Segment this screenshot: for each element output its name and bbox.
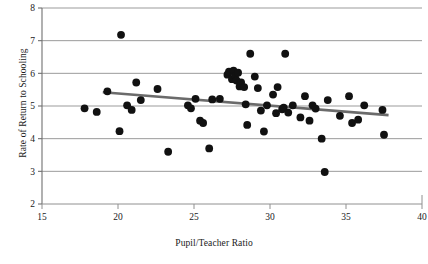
y-tick-marks	[38, 8, 42, 204]
data-point	[242, 100, 250, 108]
data-point	[205, 145, 213, 153]
data-point	[243, 121, 251, 129]
x-tick-label: 20	[113, 212, 123, 222]
data-point	[187, 104, 195, 112]
data-point	[254, 84, 262, 92]
data-point	[103, 87, 111, 95]
y-tick-label: 7	[30, 36, 35, 46]
data-point	[137, 96, 145, 104]
data-point	[132, 79, 140, 87]
data-point	[284, 109, 292, 117]
data-point	[246, 50, 254, 58]
data-point	[289, 101, 297, 109]
data-point	[269, 91, 277, 99]
data-point	[116, 127, 124, 135]
y-tick-label: 2	[30, 199, 35, 209]
x-tick-marks	[42, 204, 422, 209]
data-point	[379, 106, 387, 114]
data-point	[274, 83, 282, 91]
y-tick-label: 5	[30, 101, 35, 111]
data-point	[324, 96, 332, 104]
plot-area: 2345678 152025303540	[0, 0, 428, 264]
data-point	[234, 69, 242, 77]
data-point	[257, 107, 265, 115]
data-point	[251, 73, 259, 81]
x-tick-label: 35	[341, 212, 351, 222]
data-point	[263, 101, 271, 109]
data-point	[354, 116, 362, 124]
x-tick-label: 30	[265, 212, 275, 222]
x-axis-title: Pupil/Teacher Ratio	[0, 238, 428, 248]
y-tick-label: 8	[30, 3, 35, 13]
x-axis-line	[42, 195, 422, 204]
x-tick-labels: 152025303540	[37, 212, 427, 222]
y-tick-label: 4	[30, 134, 35, 144]
data-point	[93, 108, 101, 116]
data-point	[164, 148, 172, 156]
data-point	[199, 119, 207, 127]
data-point	[360, 101, 368, 109]
data-point	[281, 50, 289, 58]
data-point	[128, 106, 136, 114]
data-point	[301, 92, 309, 100]
data-point	[380, 131, 388, 139]
data-point	[154, 85, 162, 93]
data-point	[297, 114, 305, 122]
data-point	[260, 128, 268, 136]
data-point	[306, 117, 314, 125]
data-point	[216, 95, 224, 103]
data-point	[208, 96, 216, 104]
y-tick-label: 3	[30, 167, 35, 177]
data-point	[312, 105, 320, 113]
data-point	[336, 112, 344, 120]
x-tick-label: 15	[37, 212, 47, 222]
data-point	[117, 31, 125, 39]
y-tick-labels: 2345678	[30, 3, 35, 209]
data-point	[321, 168, 329, 176]
data-point	[240, 83, 248, 91]
x-tick-label: 40	[417, 212, 427, 222]
data-point	[81, 104, 89, 112]
data-point	[345, 92, 353, 100]
scatter-chart: 2345678 152025303540 Rate of Return to S…	[0, 0, 428, 264]
data-point	[318, 135, 326, 143]
gridlines	[42, 8, 422, 171]
y-axis-title: Rate of Return to Schooling	[18, 28, 28, 178]
data-point	[192, 95, 200, 103]
x-tick-label: 25	[189, 212, 199, 222]
y-tick-label: 6	[30, 69, 35, 79]
